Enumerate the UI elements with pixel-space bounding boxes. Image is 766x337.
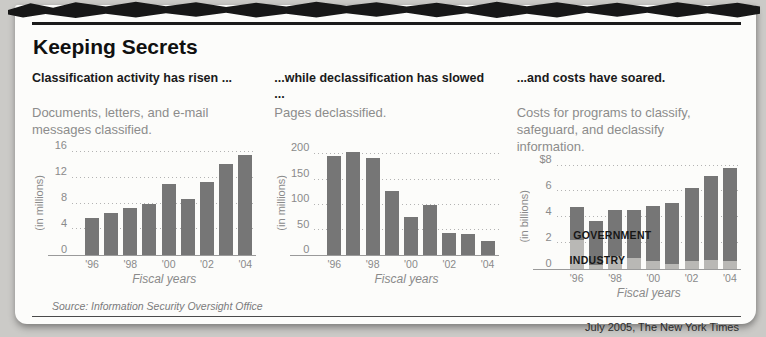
chart2-x-axis-label: Fiscal years xyxy=(314,272,498,286)
chart-columns: Classification activity has risen ... Do… xyxy=(32,71,741,300)
column-costs: ...and costs have soared. Costs for prog… xyxy=(517,71,741,300)
chart1-x-axis-label: Fiscal years xyxy=(72,272,256,286)
industry-series-label: INDUSTRY xyxy=(570,254,626,266)
top-rule xyxy=(32,22,741,25)
chart1-y-axis: 0481216 xyxy=(46,150,72,256)
chart1: (in millions) 0481216 '96'98'00'02'04 Fi… xyxy=(32,150,256,286)
credit-line: July 2005, The New York Times xyxy=(32,321,741,333)
chart3-plot-area: GOVERNMENT INDUSTRY xyxy=(557,164,741,270)
column-declassification: ...while declassification has slowed ...… xyxy=(274,71,498,300)
chart2-plot-area xyxy=(314,150,498,256)
column-classification: Classification activity has risen ... Do… xyxy=(32,71,256,300)
chart2-x-axis: '96'98'00'02'04 xyxy=(314,256,498,271)
chart1-subtitle: Documents, letters, and e-mail messages … xyxy=(32,105,240,142)
chart3-x-axis: '96'98'00'02'04 xyxy=(557,270,741,285)
chart2-heading: ...while declassification has slowed ... xyxy=(274,71,484,102)
government-series-label: GOVERNMENT xyxy=(573,229,651,241)
chart3-y-axis: 0246$8 xyxy=(531,164,557,270)
chart2-y-axis-unit: (in millions) xyxy=(274,150,288,256)
chart1-y-axis-unit: (in millions) xyxy=(32,150,46,256)
chart2-bars xyxy=(314,150,498,255)
chart2: (in millions) 050100150200 '96'98'00'02'… xyxy=(274,150,498,286)
chart3-x-axis-label: Fiscal years xyxy=(557,286,741,300)
chart2-y-axis: 050100150200 xyxy=(288,150,314,256)
source-note: Source: Information Security Oversight O… xyxy=(52,300,741,312)
chart3: (in billions) 0246$8 GOVERNMENT INDUSTRY… xyxy=(517,164,741,300)
chart3-y-axis-unit: (in billions) xyxy=(517,164,531,270)
bottom-rule xyxy=(32,316,741,317)
chart1-x-axis: '96'98'00'02'04 xyxy=(72,256,256,271)
page-title: Keeping Secrets xyxy=(33,35,741,59)
newspaper-clipping: Keeping Secrets Classification activity … xyxy=(15,5,756,324)
footer: Source: Information Security Oversight O… xyxy=(32,300,741,333)
chart3-heading: ...and costs have soared. xyxy=(517,71,727,102)
chart2-subtitle: Pages declassified. xyxy=(274,105,482,142)
chart1-plot-area xyxy=(72,150,256,256)
chart3-subtitle: Costs for programs to classify, safeguar… xyxy=(517,105,725,156)
chart1-bars xyxy=(72,150,256,255)
chart1-heading: Classification activity has risen ... xyxy=(32,71,242,102)
